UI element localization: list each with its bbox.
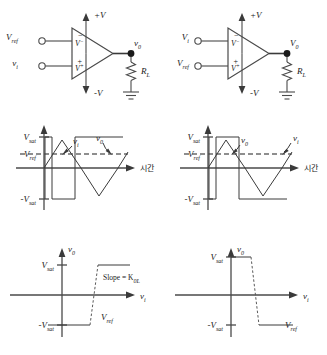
input-terminal-vref [195, 63, 201, 69]
pointer-vi-head [282, 148, 289, 155]
y-axis-arrow [59, 248, 66, 257]
label-threshold-vref: Vref [285, 320, 298, 332]
opamp-minus-sign: − [234, 31, 239, 40]
label-input-top: Vi [182, 32, 190, 44]
label-neg-vsat: -Vsat [184, 194, 200, 206]
output-node [128, 50, 135, 57]
label-y-axis: v0 [68, 244, 75, 256]
output-node [284, 50, 291, 57]
circuit-non-inverting: Vref vi V− V+ − + +V -V v0 RL [0, 0, 163, 110]
label-input-top: Vref [6, 32, 19, 44]
label-neg-vsat: -Vsat [207, 320, 223, 332]
label-signal-input: vi [293, 133, 299, 145]
label-vsat: Vsat [23, 132, 36, 144]
arrow-supply-negative [83, 86, 90, 94]
label-vref: Vref [188, 149, 201, 161]
label-neg-vsat: -Vsat [38, 320, 54, 332]
transfer-curve-non-inverting: v0 vi Vsat -Vsat Vref Slope = K0L [0, 225, 163, 355]
input-terminal-vi [195, 38, 201, 44]
label-supply-negative: -V [94, 88, 104, 98]
arrow-supply-negative [239, 86, 246, 94]
label-time-axis: 시간 [304, 163, 319, 173]
y-axis-arrow [41, 125, 48, 134]
input-terminal-vi [39, 63, 45, 69]
transfer-transition-segment [251, 257, 259, 325]
x-axis-arrow [289, 292, 298, 299]
label-input-bottom: Vref [177, 58, 190, 70]
label-threshold-vref: Vref [101, 312, 114, 324]
input-terminal-vref [39, 38, 45, 44]
label-x-axis: vi [140, 291, 146, 303]
label-signal-output: v0 [241, 135, 248, 147]
circuit-inverting: Vi Vref V− V+ − + +V -V V0 RL [163, 0, 327, 110]
label-neg-vsat: -Vsat [20, 194, 36, 206]
opamp-minus-sign: − [78, 31, 83, 40]
waveform-inverting: Vsat Vref -Vsat 시간 v0 vi [163, 110, 327, 220]
x-axis-arrow [126, 292, 135, 299]
label-output: V0 [290, 38, 299, 50]
opamp-plus-sign: + [233, 57, 238, 66]
x-axis-arrow [126, 165, 135, 172]
resistor-load [127, 62, 136, 80]
label-y-axis: v0 [237, 244, 244, 256]
label-time-axis: 시간 [140, 163, 155, 173]
opamp-plus-sign: + [77, 57, 82, 66]
label-input-bottom: vi [12, 58, 18, 70]
waveform-non-inverting: Vsat Vref -Vsat 시간 vi v0 [0, 110, 163, 220]
pointer-vi-head [62, 149, 69, 155]
y-axis-arrow [228, 248, 235, 257]
label-vref: Vref [24, 149, 37, 161]
label-load-resistor: RL [296, 66, 307, 78]
x-axis-arrow [290, 165, 299, 172]
arrow-supply-positive [83, 13, 90, 21]
label-vsat: Vsat [41, 260, 54, 272]
label-output: v0 [134, 38, 141, 50]
label-signal-input: vi [73, 136, 79, 148]
y-axis-arrow [205, 125, 212, 134]
label-vsat: Vsat [210, 252, 223, 264]
resistor-load [283, 62, 292, 80]
label-x-axis: vi [303, 291, 309, 303]
arrow-supply-positive [239, 13, 246, 21]
label-supply-positive: +V [250, 10, 263, 20]
transfer-curve-inverting: v0 vi Vsat -Vsat Vref [163, 225, 327, 355]
label-vsat: Vsat [187, 132, 200, 144]
label-load-resistor: RL [140, 66, 151, 78]
label-signal-output: v0 [96, 133, 103, 145]
label-slope: Slope = K0L [103, 273, 140, 284]
label-supply-negative: -V [250, 88, 260, 98]
label-supply-positive: +V [94, 10, 107, 20]
